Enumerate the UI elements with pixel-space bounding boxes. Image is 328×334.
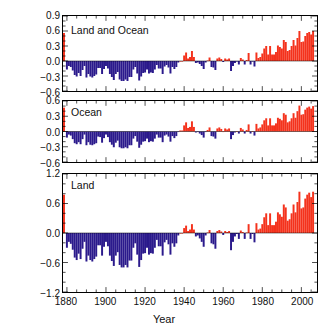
bar	[89, 233, 91, 260]
bar	[68, 233, 70, 242]
y-tick-label: −0.6	[40, 258, 60, 269]
bar	[296, 202, 298, 233]
bar	[218, 58, 220, 61]
bar	[117, 233, 119, 252]
bar	[201, 61, 203, 66]
bar	[144, 233, 146, 253]
bar	[115, 132, 117, 143]
bar	[224, 58, 226, 61]
bar	[244, 132, 246, 134]
bar	[130, 233, 132, 261]
bar	[134, 233, 136, 243]
bar	[300, 115, 302, 132]
bar	[293, 204, 295, 233]
bar	[218, 230, 220, 233]
bar	[140, 233, 142, 260]
bar	[97, 233, 99, 245]
bar	[218, 127, 220, 131]
bar	[261, 54, 263, 62]
bar	[211, 233, 213, 243]
bar	[298, 192, 300, 233]
bar	[300, 42, 302, 61]
bar	[308, 107, 310, 132]
bar	[271, 55, 273, 61]
bar	[238, 233, 240, 239]
bar	[187, 128, 189, 132]
bar	[63, 195, 65, 233]
bar	[166, 61, 168, 65]
bar	[183, 125, 185, 131]
bar	[250, 132, 252, 134]
bar	[109, 233, 111, 256]
bar	[119, 132, 121, 148]
y-tick-group-land-and-ocean: 0.90.60.30.0−0.3−0.6	[28, 15, 60, 92]
bar	[259, 229, 261, 233]
bar	[214, 61, 216, 70]
bar	[212, 61, 214, 67]
bar	[291, 213, 293, 233]
bar	[127, 61, 129, 81]
x-tick-label: 1920	[134, 296, 156, 307]
bar	[234, 61, 236, 63]
bar	[107, 233, 109, 246]
bar	[91, 132, 93, 146]
x-axis-label: Year	[0, 313, 328, 325]
y-tick-label: 0.0	[46, 56, 60, 67]
bar	[109, 61, 111, 74]
bar	[121, 233, 123, 267]
bar	[130, 132, 132, 146]
bar	[82, 61, 84, 70]
bar	[289, 121, 291, 131]
bar	[103, 61, 105, 69]
bar	[201, 233, 203, 242]
bar	[125, 233, 127, 265]
bar	[72, 61, 74, 70]
bar	[220, 59, 222, 61]
bar	[211, 61, 213, 67]
bar	[244, 233, 246, 239]
bar	[193, 57, 195, 61]
bar	[117, 132, 119, 141]
bar	[156, 132, 158, 135]
bar	[240, 231, 242, 233]
bar	[63, 33, 65, 61]
bar	[275, 222, 277, 233]
bar	[267, 225, 269, 233]
bar	[82, 132, 84, 140]
bar	[146, 61, 148, 70]
bar	[78, 233, 80, 254]
bar	[148, 233, 150, 255]
bar	[111, 132, 113, 145]
bar	[154, 233, 156, 248]
bar	[150, 61, 152, 73]
bar	[109, 132, 111, 143]
bar	[203, 233, 205, 247]
bar	[302, 114, 304, 131]
bar	[148, 61, 150, 73]
bar	[101, 61, 103, 74]
bar	[134, 61, 136, 67]
bar	[293, 113, 295, 131]
bar	[138, 233, 140, 267]
bar	[222, 233, 224, 235]
bar	[138, 132, 140, 148]
figure-root: Temperature anomaly (°C) 0.90.60.30.0−0.…	[0, 0, 328, 334]
bar	[285, 207, 287, 233]
bar	[269, 46, 271, 61]
bar	[273, 125, 275, 131]
bar	[261, 124, 263, 131]
bar	[156, 233, 158, 240]
bar	[128, 132, 130, 146]
bar	[238, 61, 240, 64]
bar	[80, 61, 82, 76]
bar	[271, 225, 273, 233]
x-tick-label: 1980	[252, 296, 274, 307]
bar	[209, 58, 211, 61]
bar	[97, 61, 99, 68]
bar	[76, 61, 78, 76]
bar	[160, 233, 162, 246]
bar	[115, 61, 117, 74]
bar	[287, 221, 289, 233]
bar	[232, 61, 234, 66]
x-tick-label: 1900	[94, 296, 116, 307]
